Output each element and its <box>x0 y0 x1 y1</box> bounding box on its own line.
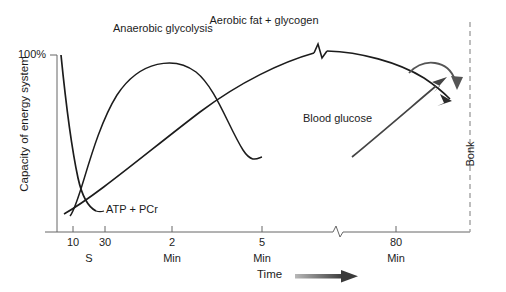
curve-aerobic-arrowhead <box>437 94 452 106</box>
x-tick-label-30: 30 <box>90 236 120 249</box>
curve-aerobic-right <box>327 51 450 99</box>
x-axis-break-mark <box>333 226 343 237</box>
curve-aerobic-break-mark <box>314 44 327 58</box>
curve-label-aerobic: Aerobic fat + glycogen <box>209 14 319 27</box>
x-unit-label-minutes-80: Min <box>381 252 411 265</box>
x-axis-title: Time <box>257 268 282 280</box>
curve-label-atp-pcr: ATP + PCr <box>106 203 158 216</box>
energy-systems-chart: Anaerobic glycolysis Aerobic fat + glyco… <box>0 0 506 292</box>
x-unit-label-minutes-5: Min <box>247 252 277 265</box>
x-tick-label-5: 5 <box>247 236 277 249</box>
y-axis-title: Capacity of energy system <box>18 39 30 209</box>
curve-label-blood-glucose: Blood glucose <box>303 112 372 125</box>
atp-pcr-leader-line <box>96 211 104 212</box>
time-arrow-icon <box>295 270 358 283</box>
curve-atp-pcr <box>61 55 96 211</box>
x-unit-label-minutes-2: Min <box>157 252 187 265</box>
x-tick-label-80: 80 <box>381 236 411 249</box>
curve-anaerobic-glycolysis <box>70 63 262 216</box>
blood-glucose-text: Blood glucose <box>303 112 372 124</box>
atp-pcr-text: ATP + PCr <box>106 203 158 215</box>
x-tick-label-2: 2 <box>157 236 187 249</box>
x-tick-label-10: 10 <box>58 236 88 249</box>
x-unit-label-seconds: S <box>74 252 104 265</box>
aerobic-text: Aerobic fat + glycogen <box>209 14 318 26</box>
bonk-arc-arrow <box>409 63 455 80</box>
bonk-arc-arrowhead <box>451 76 463 90</box>
curve-aerobic-left <box>64 53 314 214</box>
anaerobic-glycolysis-text: Anaerobic glycolysis <box>113 22 213 34</box>
curve-label-anaerobic-glycolysis: Anaerobic glycolysis <box>113 22 197 35</box>
bonk-label: Bonk <box>464 127 476 181</box>
